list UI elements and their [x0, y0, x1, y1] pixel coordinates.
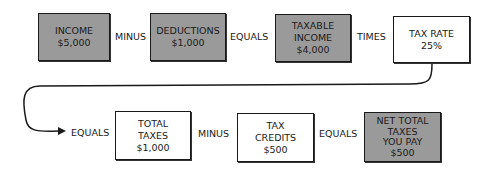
- income-box: INCOME $5,000: [38, 13, 110, 61]
- equals-operator: EQUALS: [230, 31, 268, 43]
- equals-operator-3: EQUALS: [319, 128, 357, 140]
- tax-credits-label-1: TAX: [266, 120, 284, 132]
- income-label: INCOME: [55, 25, 93, 37]
- total-taxes-label-2: TAXES: [138, 130, 168, 142]
- minus-operator-2: MINUS: [198, 128, 229, 140]
- deductions-value: $1,000: [171, 37, 204, 49]
- net-total-label-1: NET TOTAL: [376, 116, 428, 127]
- equals-operator-2: EQUALS: [71, 127, 109, 139]
- income-value: $5,000: [57, 37, 90, 49]
- minus-operator: MINUS: [115, 31, 146, 43]
- taxable-income-label-1: TAXABLE: [292, 20, 334, 32]
- net-total-value: $500: [390, 148, 414, 159]
- total-taxes-value: $1,000: [136, 142, 169, 154]
- tax-credits-box: TAX CREDITS $500: [237, 113, 314, 162]
- arrowhead-icon: [58, 127, 66, 135]
- deductions-label: DEDUCTIONS: [156, 25, 219, 37]
- tax-credits-label-2: CREDITS: [255, 132, 296, 144]
- taxable-income-value: $4,000: [296, 44, 329, 56]
- taxable-income-label-2: INCOME: [294, 32, 332, 44]
- total-taxes-box: TOTAL TAXES $1,000: [115, 111, 191, 160]
- total-taxes-label-1: TOTAL: [138, 118, 168, 130]
- taxable-income-box: TAXABLE INCOME $4,000: [275, 14, 351, 62]
- tax-rate-box: TAX RATE 25%: [393, 16, 470, 63]
- tax-rate-value: 25%: [421, 40, 442, 52]
- tax-rate-label: TAX RATE: [409, 28, 454, 40]
- net-total-label-3: YOU PAY: [383, 137, 422, 148]
- net-total-taxes-box: NET TOTAL TAXES YOU PAY $500: [364, 112, 441, 162]
- tax-credits-value: $500: [263, 144, 287, 156]
- times-operator: TIMES: [357, 31, 386, 43]
- deductions-box: DEDUCTIONS $1,000: [150, 13, 226, 61]
